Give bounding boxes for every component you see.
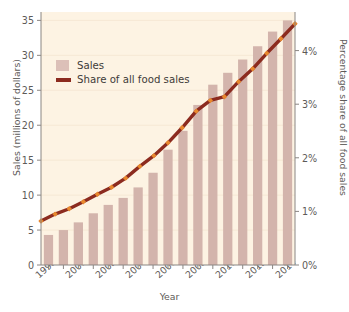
bar — [223, 73, 232, 265]
legend-line-share — [56, 78, 71, 82]
bar — [163, 150, 172, 265]
bar — [268, 32, 277, 265]
bar — [193, 105, 202, 265]
bar — [208, 85, 217, 265]
y-axis-right-title: Percentage share of all food sales — [338, 28, 349, 208]
figure-caption — [2, 303, 337, 312]
legend-swatch-sales — [56, 60, 69, 71]
bar — [238, 60, 247, 265]
legend-item-share: Share of all food sales — [56, 72, 190, 87]
bar — [178, 131, 187, 265]
bar — [133, 187, 142, 265]
bar — [59, 230, 68, 265]
legend-item-sales: Sales — [56, 58, 190, 72]
bar — [44, 235, 53, 265]
bar — [253, 46, 262, 265]
legend: Sales Share of all food sales — [56, 58, 190, 87]
legend-label-sales: Sales — [77, 60, 104, 71]
bar — [148, 173, 157, 265]
bar — [104, 205, 113, 265]
legend-label-share: Share of all food sales — [77, 74, 190, 85]
bar — [283, 20, 292, 265]
bar — [89, 213, 98, 265]
bar — [119, 198, 128, 265]
bar — [74, 222, 83, 265]
